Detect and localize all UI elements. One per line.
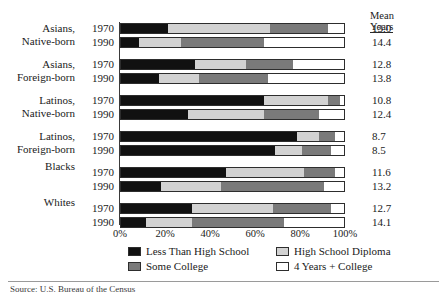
bar-segment-4	[340, 96, 344, 105]
group-label-line1: Blacks	[0, 160, 75, 173]
x-axis-tick: 20%	[155, 228, 174, 239]
bar-segment-3	[246, 60, 293, 69]
legend-label: Less Than High School	[146, 245, 249, 257]
bar-row	[120, 59, 345, 70]
group-label: Blacks	[0, 160, 75, 173]
group-label-line1: Latinos,	[0, 94, 75, 107]
bar-row	[120, 73, 345, 84]
stacked-bar	[120, 73, 345, 84]
legend-label: High School Diploma	[294, 245, 391, 257]
bar-segment-1	[121, 146, 275, 155]
bar-segment-4	[293, 60, 344, 69]
bar-segment-2	[192, 204, 272, 213]
legend-label: 4 Years + College	[294, 260, 372, 272]
bar-segment-1	[121, 204, 192, 213]
bar-row	[120, 217, 345, 228]
group-label-line2: Native-born	[0, 107, 75, 120]
bar-row	[120, 203, 345, 214]
bar-segment-3	[328, 96, 339, 105]
bar-segment-2	[139, 38, 181, 47]
bar-segment-1	[121, 74, 159, 83]
x-axis-tick: 60%	[245, 228, 264, 239]
bar-segment-4	[284, 218, 344, 227]
bar-segment-3	[181, 38, 264, 47]
bar-segment-3	[302, 146, 331, 155]
bar-segment-1	[121, 182, 161, 191]
mean-years-value: 10.8	[372, 95, 412, 106]
bar-segment-4	[268, 74, 344, 83]
x-axis-tick: 40%	[200, 228, 219, 239]
mean-years-value: 12.7	[372, 203, 412, 214]
group-label-line1: Asians,	[0, 22, 75, 35]
bar-segment-3	[270, 24, 328, 33]
stacked-bar	[120, 217, 345, 228]
bar-segment-1	[121, 38, 139, 47]
legend-item: 4 Years + College	[276, 260, 372, 272]
bar-row	[120, 23, 345, 34]
mean-years-value: 12.8	[372, 59, 412, 70]
stacked-bar	[120, 167, 345, 178]
bar-segment-2	[168, 24, 271, 33]
bar-segment-1	[121, 96, 264, 105]
legend-swatch-icon	[276, 247, 289, 256]
stacked-bar	[120, 131, 345, 142]
bar-segment-1	[121, 132, 297, 141]
legend-label: Some College	[146, 260, 208, 272]
year-label: 1970	[80, 203, 114, 214]
bar-row	[120, 145, 345, 156]
legend-item: Less Than High School	[128, 245, 276, 257]
stacked-bar	[120, 95, 345, 106]
mean-years-value: 8.5	[372, 145, 412, 156]
bar-segment-4	[331, 204, 344, 213]
year-label: 1990	[80, 145, 114, 156]
group-label-line1: Latinos,	[0, 130, 75, 143]
year-label: 1970	[80, 95, 114, 106]
bar-row	[120, 109, 345, 120]
group-label: Latinos,Native-born	[0, 94, 75, 120]
stacked-bar	[120, 145, 345, 156]
mean-years-header-line1: Mean	[370, 10, 430, 21]
mean-years-value: 14.1	[372, 217, 412, 228]
bar-segment-3	[319, 132, 335, 141]
group-label-line1: Asians,	[0, 58, 75, 71]
bar-row	[120, 37, 345, 48]
group-label: Asians,Foreign-born	[0, 58, 75, 84]
x-axis-tick: 80%	[290, 228, 309, 239]
stacked-bar	[120, 181, 345, 192]
legend-item: High School Diploma	[276, 245, 391, 257]
bar-segment-2	[275, 146, 302, 155]
bar-row	[120, 95, 345, 106]
bar-segment-1	[121, 60, 195, 69]
year-label: 1990	[80, 37, 114, 48]
bar-segment-4	[324, 182, 344, 191]
bar-segment-2	[195, 60, 246, 69]
bar-segment-1	[121, 110, 188, 119]
year-label: 1970	[80, 59, 114, 70]
bar-segment-4	[335, 168, 344, 177]
group-label: Asians,Native-born	[0, 22, 75, 48]
bar-segment-3	[264, 110, 320, 119]
stacked-bar	[120, 23, 345, 34]
bar-segment-1	[121, 218, 146, 227]
mean-years-value: 14.4	[372, 37, 412, 48]
bar-segment-2	[188, 110, 264, 119]
bar-segment-3	[273, 204, 331, 213]
legend-swatch-icon	[128, 247, 141, 256]
year-label: 1990	[80, 181, 114, 192]
bar-segment-2	[297, 132, 319, 141]
source-note: Source: U.S. Bureau of the Census	[10, 284, 135, 292]
bar-segment-1	[121, 168, 226, 177]
bar-row	[120, 181, 345, 192]
bar-segment-3	[304, 168, 335, 177]
x-axis: 0%20%40%60%80%100%	[0, 228, 447, 242]
stacked-bar	[120, 109, 345, 120]
bar-segment-4	[319, 110, 344, 119]
bar-segment-3	[192, 218, 283, 227]
year-label: 1970	[80, 167, 114, 178]
bar-segment-4	[335, 132, 344, 141]
bar-segment-3	[199, 74, 268, 83]
year-label: 1990	[80, 73, 114, 84]
stacked-bar	[120, 59, 345, 70]
bar-segment-4	[328, 24, 344, 33]
year-label: 1990	[80, 217, 114, 228]
